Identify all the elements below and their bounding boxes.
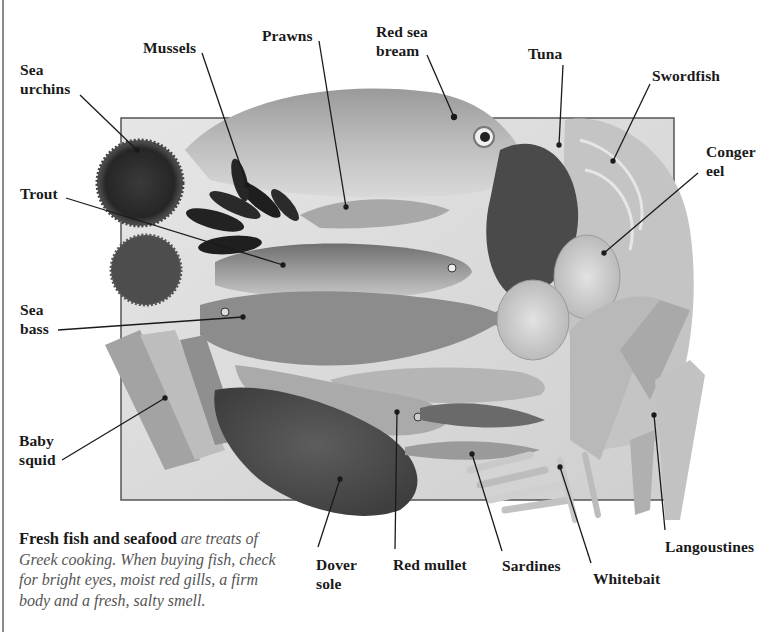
label-conger-eel: Conger eel: [706, 142, 756, 180]
label-tuna: Tuna: [528, 44, 562, 63]
caption-lead: Fresh fish and seafood: [19, 529, 177, 548]
label-baby-squid: Baby squid: [19, 431, 56, 469]
label-trout-line1: Trout: [20, 184, 58, 203]
label-baby-squid-line2: squid: [19, 450, 56, 469]
label-red-sea-bream-line1: Red sea: [376, 22, 428, 41]
label-langoustines: Langoustines: [665, 537, 754, 556]
label-whitebait-line1: Whitebait: [593, 569, 660, 588]
label-trout: Trout: [20, 184, 58, 203]
label-mussels: Mussels: [143, 38, 196, 57]
label-tuna-line1: Tuna: [528, 44, 562, 63]
label-prawns-line1: Prawns: [262, 26, 313, 45]
label-swordfish-line1: Swordfish: [652, 66, 720, 85]
label-langoustines-line1: Langoustines: [665, 537, 754, 556]
label-sea-urchins-line2: urchins: [20, 79, 70, 98]
label-sea-bass-line1: Sea: [20, 300, 49, 319]
label-sea-bass: Sea bass: [20, 300, 49, 338]
label-conger-eel-line2: eel: [706, 161, 756, 180]
label-sea-bass-line2: bass: [20, 319, 49, 338]
label-dover-sole: Dover sole: [316, 555, 357, 593]
label-sardines: Sardines: [502, 556, 561, 575]
label-red-sea-bream-line2: bream: [376, 41, 428, 60]
label-baby-squid-line1: Baby: [19, 431, 56, 450]
photo-caption: Fresh fish and seafood are treats of Gre…: [19, 529, 289, 611]
label-red-mullet-line1: Red mullet: [393, 555, 467, 574]
label-sea-urchins-line1: Sea: [20, 60, 70, 79]
label-conger-eel-line1: Conger: [706, 142, 756, 161]
label-red-sea-bream: Red sea bream: [376, 22, 428, 60]
label-red-mullet: Red mullet: [393, 555, 467, 574]
label-sardines-line1: Sardines: [502, 556, 561, 575]
label-mussels-line1: Mussels: [143, 38, 196, 57]
label-whitebait: Whitebait: [593, 569, 660, 588]
label-swordfish: Swordfish: [652, 66, 720, 85]
label-prawns: Prawns: [262, 26, 313, 45]
label-sea-urchins: Sea urchins: [20, 60, 70, 98]
label-dover-sole-line2: sole: [316, 574, 357, 593]
label-dover-sole-line1: Dover: [316, 555, 357, 574]
